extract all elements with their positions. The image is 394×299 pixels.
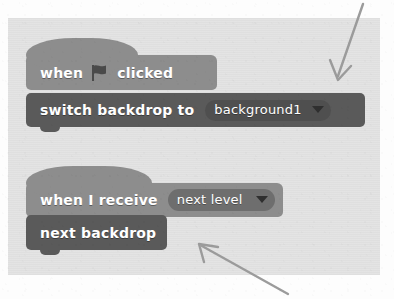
switch-backdrop-to-block[interactable]: switch backdrop to background1 — [26, 93, 365, 127]
when-green-flag-clicked-label-clicked: clicked — [117, 65, 173, 81]
next-backdrop-block[interactable]: next backdrop — [26, 215, 167, 250]
message-dropdown-value: next level — [177, 192, 243, 207]
when-green-flag-clicked-label-when: when — [40, 65, 83, 81]
receive-message-script: when I receive next level next backdrop — [26, 168, 316, 254]
chevron-down-icon[interactable] — [312, 106, 324, 113]
green-flag-script: when clicked switch backdrop to backgrou… — [26, 38, 371, 132]
switch-backdrop-label: switch backdrop to — [40, 102, 194, 118]
backdrop-dropdown[interactable]: background1 — [205, 100, 330, 121]
next-backdrop-label: next backdrop — [40, 225, 156, 241]
when-i-receive-block[interactable]: when I receive next level — [26, 183, 283, 217]
when-green-flag-clicked-block[interactable]: when clicked — [26, 55, 217, 90]
green-flag-icon — [90, 64, 110, 82]
chevron-down-icon[interactable] — [256, 196, 268, 203]
backdrop-dropdown-value: background1 — [214, 102, 301, 117]
message-dropdown[interactable]: next level — [168, 189, 275, 211]
screenshot-root: when clicked switch backdrop to backgrou… — [0, 0, 394, 299]
block-bottom-nub — [40, 248, 60, 255]
block-bottom-nub — [40, 125, 60, 132]
when-i-receive-label: when I receive — [40, 192, 158, 208]
